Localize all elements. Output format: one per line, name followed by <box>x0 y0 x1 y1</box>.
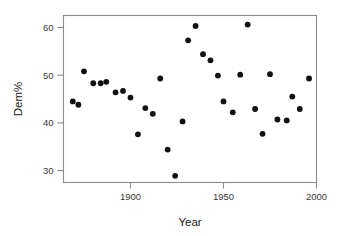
data-point <box>185 37 191 43</box>
y-tick-label: 50 <box>43 70 54 81</box>
y-tick-label: 40 <box>43 117 54 128</box>
data-point <box>120 88 126 94</box>
data-point <box>208 57 214 63</box>
data-point <box>75 102 81 108</box>
y-tick-label: 30 <box>43 165 54 176</box>
data-point <box>113 89 119 95</box>
y-axis-ticks: 30405060 <box>43 22 64 176</box>
data-point <box>142 105 148 111</box>
data-point <box>221 98 227 104</box>
data-point <box>135 131 141 137</box>
data-point <box>172 173 178 179</box>
x-axis-title: Year <box>178 216 201 228</box>
data-point <box>230 109 236 115</box>
data-point <box>245 22 251 28</box>
data-point <box>260 131 266 137</box>
x-tick-label: 1900 <box>120 191 141 202</box>
data-point <box>103 79 109 85</box>
data-point <box>237 72 243 78</box>
data-points-layer <box>70 22 312 179</box>
x-axis-ticks: 190019502000 <box>120 183 327 202</box>
data-point <box>267 71 273 77</box>
scatter-plot-figure: 30405060 190019502000 Year Dem% <box>0 0 340 236</box>
data-point <box>81 68 87 74</box>
y-tick-label: 60 <box>43 22 54 33</box>
plot-svg: 30405060 190019502000 Year Dem% <box>0 0 340 236</box>
data-point <box>215 73 221 79</box>
data-point <box>306 76 312 82</box>
data-point <box>180 119 186 125</box>
data-point <box>200 51 206 57</box>
data-point <box>275 117 281 123</box>
data-point <box>193 23 199 29</box>
data-point <box>284 118 290 124</box>
data-point <box>70 98 76 104</box>
data-point <box>157 76 163 82</box>
data-point <box>128 95 134 101</box>
data-point <box>289 94 295 100</box>
x-tick-label: 2000 <box>306 191 327 202</box>
data-point <box>90 80 96 86</box>
data-point <box>252 106 258 112</box>
data-point <box>297 106 303 112</box>
data-point <box>150 111 156 117</box>
y-axis-title: Dem% <box>12 82 24 117</box>
data-point <box>98 80 104 86</box>
x-tick-label: 1950 <box>213 191 234 202</box>
data-point <box>165 147 171 153</box>
